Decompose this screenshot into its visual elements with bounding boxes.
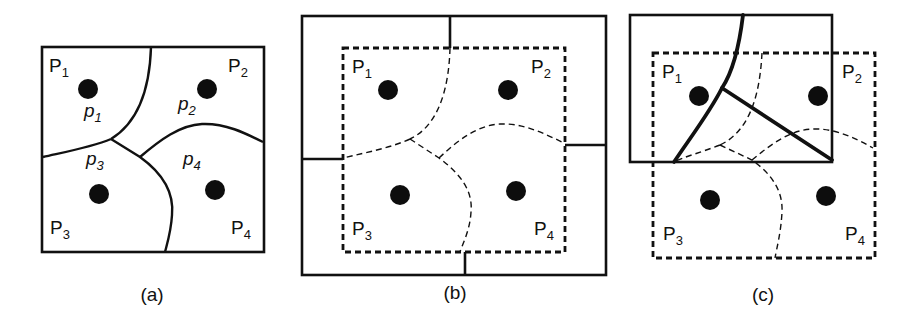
site-dot-p3 [700,190,720,210]
panel-b-outer-boundary [302,16,606,275]
region-label-P4: P4 [231,217,251,242]
site-dot-p2 [498,80,518,100]
site-dot-p4 [205,180,225,200]
site-dot-p4 [816,186,836,206]
site-dot-p1 [689,86,709,106]
panel-b-dashed-edge-p2-p4 [439,124,562,158]
region-label-P1: P1 [352,56,372,81]
panel-b: P1 P2 P3 P4 (b) [302,16,606,303]
region-label-P3: P3 [663,223,683,248]
region-label-P1: P1 [662,61,682,86]
site-dot-p2 [808,86,828,106]
region-label-P1: P1 [49,55,69,80]
panel-c: P1 P2 P3 P4 (c) [630,15,875,305]
panel-c-thick-edge-curve [674,15,743,162]
region-label-P2: P2 [531,56,551,81]
region-label-P2: P2 [228,55,248,80]
cell-label-p4: p4 [182,148,201,173]
cell-label-p3: p3 [85,148,105,173]
region-label-P4: P4 [845,223,865,248]
panel-a-edge-p1-p3 [43,139,111,157]
panel-b-dashed-edge-p1-p3 [343,139,410,158]
panel-a-caption: (a) [140,284,163,305]
site-dot-p2 [197,79,217,99]
site-dot-p1 [78,79,98,99]
region-label-P2: P2 [842,61,862,86]
region-label-P3: P3 [352,218,372,243]
panel-a-edge-p2-p4 [140,124,263,157]
cell-label-p1: p1 [83,100,102,125]
site-dot-p3 [89,184,109,204]
panel-c-dashed-edge-p2-p4 [752,129,873,160]
site-dot-p4 [506,181,526,201]
panel-a-edge-p1-p2 [111,47,151,139]
panel-c-caption: (c) [752,284,774,305]
region-label-P3: P3 [50,217,70,242]
cell-label-p2: p2 [177,93,197,118]
panel-a: P1 P2 P3 P4 p1 p2 p3 p4 (a) [42,47,264,305]
panel-b-dashed-edge-p1-p2 [410,48,450,139]
site-dot-p1 [378,80,398,100]
voronoi-partition-figure: P1 P2 P3 P4 p1 p2 p3 p4 (a) P1 P2 P3 P4 [0,0,916,322]
site-dot-p3 [390,185,410,205]
panel-b-caption: (b) [443,282,466,303]
region-label-P4: P4 [534,218,554,243]
panel-c-dashed-boundary [653,53,875,258]
